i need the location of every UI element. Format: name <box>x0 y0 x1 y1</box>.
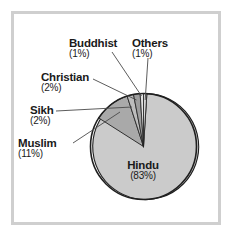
slice-label-christian-percent: (2%) <box>41 83 89 94</box>
slice-label-hindu-percent: (83%) <box>113 171 173 182</box>
slice-label-muslim-percent: (11%) <box>18 149 56 160</box>
leader-line-christian <box>93 79 137 100</box>
slice-label-buddhist: Buddhist (1%) <box>69 37 117 60</box>
slice-label-sikh: Sikh (2%) <box>30 104 54 127</box>
slice-label-hindu: Hindu (83%) <box>113 159 173 182</box>
slice-label-muslim: Muslim (11%) <box>18 137 56 160</box>
slice-label-buddhist-percent: (1%) <box>69 49 117 60</box>
slice-label-sikh-percent: (2%) <box>30 116 54 127</box>
slice-label-others: Others (1%) <box>132 37 168 60</box>
pie-chart-figure: Buddhist (1%) Others (1%) Christian (2%)… <box>0 0 233 240</box>
slice-label-christian: Christian (2%) <box>41 71 89 94</box>
slice-label-others-percent: (1%) <box>132 49 168 60</box>
